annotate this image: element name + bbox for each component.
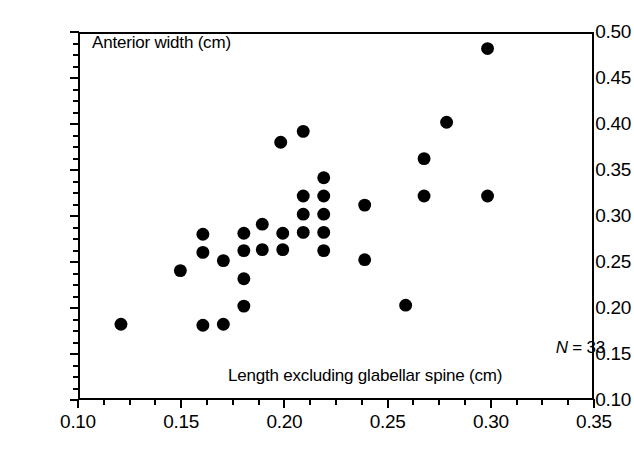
data-point (237, 227, 250, 240)
data-point (256, 218, 269, 231)
data-point (297, 190, 310, 203)
data-point (297, 226, 310, 239)
data-point (317, 171, 330, 184)
data-point (317, 226, 330, 239)
data-point (196, 246, 209, 259)
data-point (237, 300, 250, 313)
data-point (418, 190, 431, 203)
data-point (481, 42, 494, 55)
x-tick-label: 0.25 (348, 412, 428, 431)
data-point (317, 208, 330, 221)
data-point (256, 243, 269, 256)
x-tick-label: 0.10 (38, 412, 118, 431)
x-tick-label: 0.35 (554, 412, 634, 431)
data-point (237, 272, 250, 285)
data-point (274, 136, 287, 149)
data-point (440, 116, 453, 129)
data-point (196, 228, 209, 241)
data-point (358, 253, 371, 266)
x-tick-major (490, 399, 492, 408)
data-point (276, 227, 289, 240)
data-point (297, 208, 310, 221)
data-point (196, 319, 209, 332)
x-tick-label: 0.30 (451, 412, 531, 431)
data-point (276, 243, 289, 256)
x-axis-title: Length excluding glabellar spine (cm) (228, 366, 502, 386)
data-point (217, 254, 230, 267)
data-point (317, 244, 330, 257)
sample-size-value: = 33 (572, 338, 605, 357)
data-point (237, 244, 250, 257)
x-tick-major (283, 399, 285, 408)
data-points-layer (80, 34, 592, 398)
y-axis-title: Anterior width (cm) (92, 33, 231, 53)
x-tick-label: 0.20 (244, 412, 324, 431)
x-tick-major (180, 399, 182, 408)
x-tick-major (77, 399, 79, 408)
data-point (399, 299, 412, 312)
data-point (115, 318, 128, 331)
sample-size-symbol: N (556, 338, 568, 357)
data-point (481, 190, 494, 203)
data-point (297, 125, 310, 138)
data-point (174, 264, 187, 277)
x-tick-major (387, 399, 389, 408)
data-point (317, 190, 330, 203)
plot-area (78, 32, 594, 400)
x-tick-major (593, 399, 595, 408)
sample-size-annotation: N = 33 (556, 338, 605, 358)
data-point (418, 152, 431, 165)
x-tick-label: 0.15 (141, 412, 221, 431)
data-point (358, 199, 371, 212)
data-point (217, 318, 230, 331)
